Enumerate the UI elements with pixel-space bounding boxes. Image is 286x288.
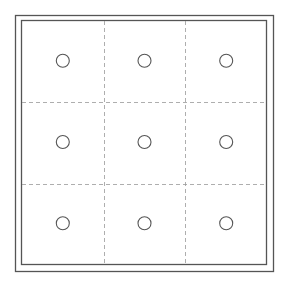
cell-circle <box>56 136 69 149</box>
cell-circle <box>220 136 233 149</box>
cell-circle <box>138 136 151 149</box>
cell-circle <box>56 217 69 230</box>
cell-circle <box>138 217 151 230</box>
cell-circle <box>220 217 233 230</box>
cell-circle <box>220 54 233 67</box>
grid-diagram <box>0 0 286 288</box>
cell-circle <box>138 54 151 67</box>
cell-circle <box>56 54 69 67</box>
